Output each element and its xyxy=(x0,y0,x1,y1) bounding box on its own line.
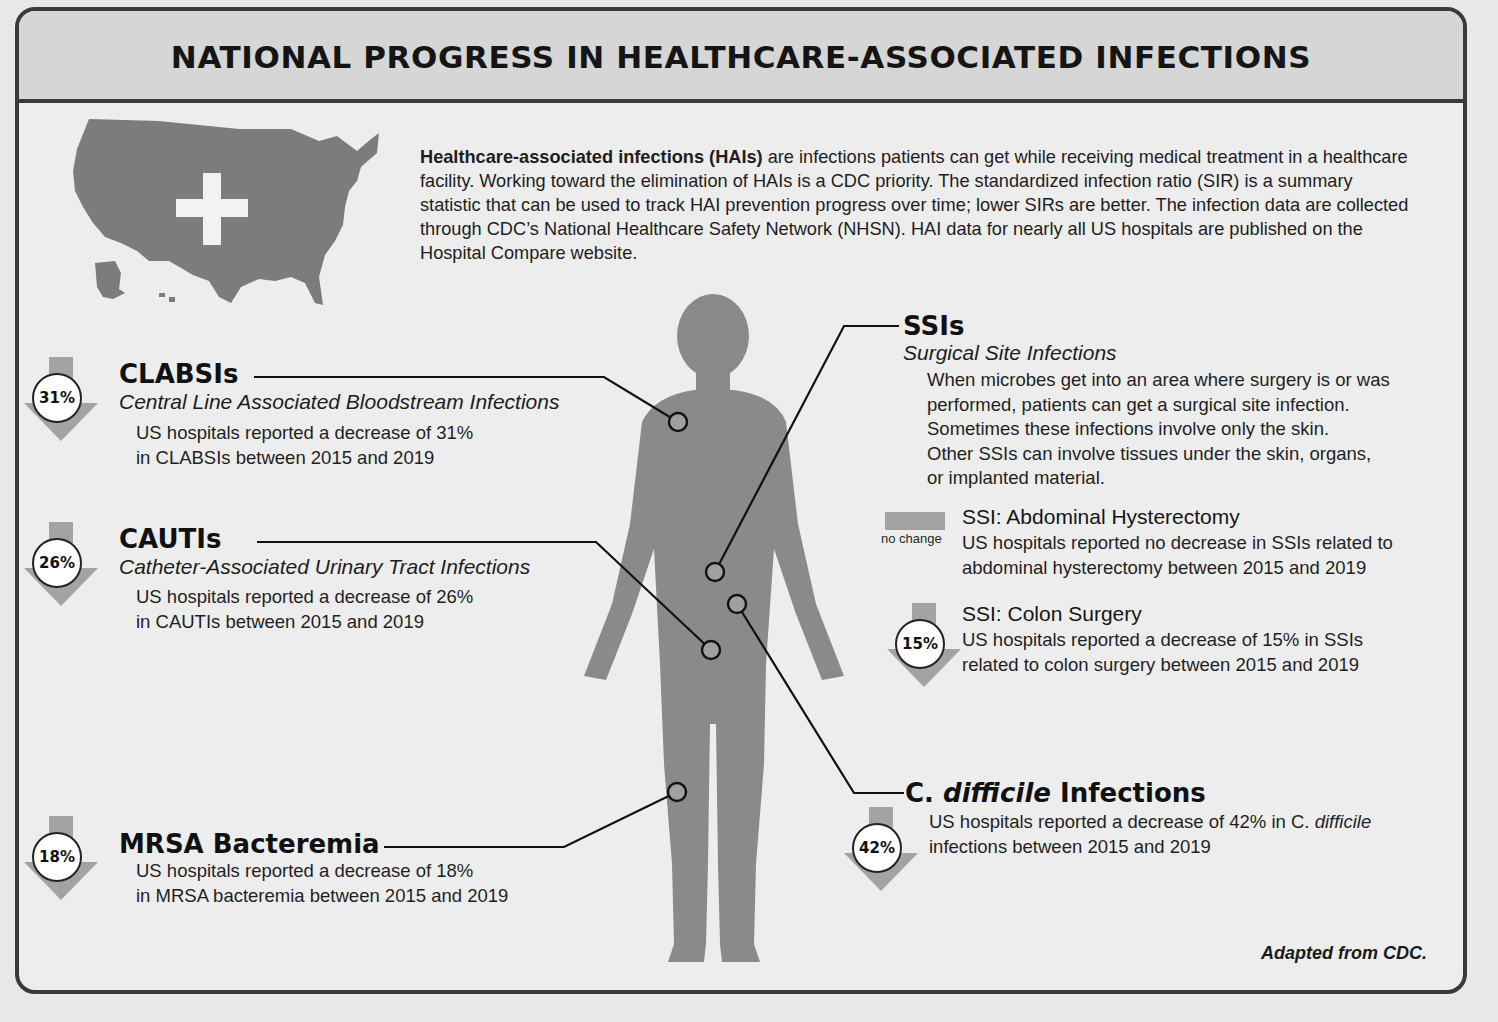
ssi-line-3: Sometimes these infections involve only … xyxy=(927,417,1390,442)
cauti-subtitle: Catheter-Associated Urinary Tract Infect… xyxy=(119,554,530,580)
clabsi-line-2: in CLABSIs between 2015 and 2019 xyxy=(136,446,473,471)
mrsa-marker xyxy=(668,783,686,801)
cdiff-line-1-text: US hospitals reported a decrease of 42% … xyxy=(929,811,1315,832)
cauti-description: US hospitals reported a decrease of 26% … xyxy=(136,585,473,634)
header-bar: NATIONAL PROGRESS IN HEALTHCARE-ASSOCIAT… xyxy=(19,11,1463,103)
cdiff-marker xyxy=(728,595,746,613)
hysterectomy-line-1: US hospitals reported no decrease in SSI… xyxy=(962,531,1393,556)
cdiff-title-suffix: Infections xyxy=(1051,778,1206,808)
ssi-line-2: performed, patients can get a surgical s… xyxy=(927,393,1390,418)
cauti-marker xyxy=(702,641,720,659)
colon-description: US hospitals reported a decrease of 15% … xyxy=(962,628,1363,677)
mrsa-line-1: US hospitals reported a decrease of 18% xyxy=(136,859,508,884)
page-title: NATIONAL PROGRESS IN HEALTHCARE-ASSOCIAT… xyxy=(171,39,1311,75)
cdiff-description: US hospitals reported a decrease of 42% … xyxy=(929,810,1371,859)
clabsi-title: CLABSIs xyxy=(119,359,238,389)
cdiff-title-italic: difficile xyxy=(943,778,1051,808)
cdiff-line-2: infections between 2015 and 2019 xyxy=(929,835,1371,860)
cauti-decrease-badge: 26% xyxy=(31,522,91,607)
ssi-marker xyxy=(706,563,724,581)
mrsa-line-2: in MRSA bacteremia between 2015 and 2019 xyxy=(136,884,508,909)
clabsi-description: US hospitals reported a decrease of 31% … xyxy=(136,421,473,470)
no-change-bar-icon xyxy=(885,512,945,530)
ssi-line-4: Other SSIs can involve tissues under the… xyxy=(927,442,1390,467)
ssi-line-1: When microbes get into an area where sur… xyxy=(927,368,1390,393)
mrsa-description: US hospitals reported a decrease of 18% … xyxy=(136,859,508,908)
clabsi-decrease-badge: 31% xyxy=(31,357,91,442)
cauti-line-2: in CAUTIs between 2015 and 2019 xyxy=(136,610,473,635)
us-map-icon-shape xyxy=(73,119,379,305)
cdiff-line-1-italic: difficile xyxy=(1315,811,1372,832)
ssi-title: SSIs xyxy=(903,311,964,341)
ssi-description: When microbes get into an area where sur… xyxy=(927,368,1390,491)
cauti-line-1: US hospitals reported a decrease of 26% xyxy=(136,585,473,610)
no-change-label: no change xyxy=(881,531,942,546)
hysterectomy-title: SSI: Abdominal Hysterectomy xyxy=(962,504,1240,530)
hysterectomy-line-2: abdominal hysterectomy between 2015 and … xyxy=(962,556,1393,581)
hysterectomy-description: US hospitals reported no decrease in SSI… xyxy=(962,531,1393,580)
clabsi-subtitle: Central Line Associated Bloodstream Infe… xyxy=(119,389,559,415)
cdiff-title-prefix: C. xyxy=(905,778,943,808)
cauti-percent: 26% xyxy=(32,538,82,588)
mrsa-title: MRSA Bacteremia xyxy=(119,829,380,859)
clabsi-percent: 31% xyxy=(32,373,82,423)
mrsa-percent: 18% xyxy=(32,832,82,882)
ssi-subtitle: Surgical Site Infections xyxy=(903,340,1117,366)
infographic-frame: NATIONAL PROGRESS IN HEALTHCARE-ASSOCIAT… xyxy=(15,7,1467,994)
intro-lead: Healthcare-associated infections (HAIs) xyxy=(420,147,763,167)
cauti-title: CAUTIs xyxy=(119,524,221,554)
colon-percent: 15% xyxy=(895,619,945,669)
colon-title: SSI: Colon Surgery xyxy=(962,601,1142,627)
clabsi-marker xyxy=(669,413,687,431)
clabsi-line-1: US hospitals reported a decrease of 31% xyxy=(136,421,473,446)
medical-cross-icon xyxy=(176,173,248,245)
colon-line-2: related to colon surgery between 2015 an… xyxy=(962,653,1363,678)
mrsa-decrease-badge: 18% xyxy=(31,816,91,901)
colon-line-1: US hospitals reported a decrease of 15% … xyxy=(962,628,1363,653)
cdiff-title: C. difficile Infections xyxy=(905,778,1206,808)
source-credit: Adapted from CDC. xyxy=(1261,943,1427,964)
cdiff-percent: 42% xyxy=(852,823,902,873)
intro-paragraph: Healthcare-associated infections (HAIs) … xyxy=(420,145,1410,265)
cdiff-decrease-badge: 42% xyxy=(851,807,911,892)
colon-decrease-badge: 15% xyxy=(894,603,954,688)
ssi-line-5: or implanted material. xyxy=(927,466,1390,491)
cdiff-line-1: US hospitals reported a decrease of 42% … xyxy=(929,810,1371,835)
